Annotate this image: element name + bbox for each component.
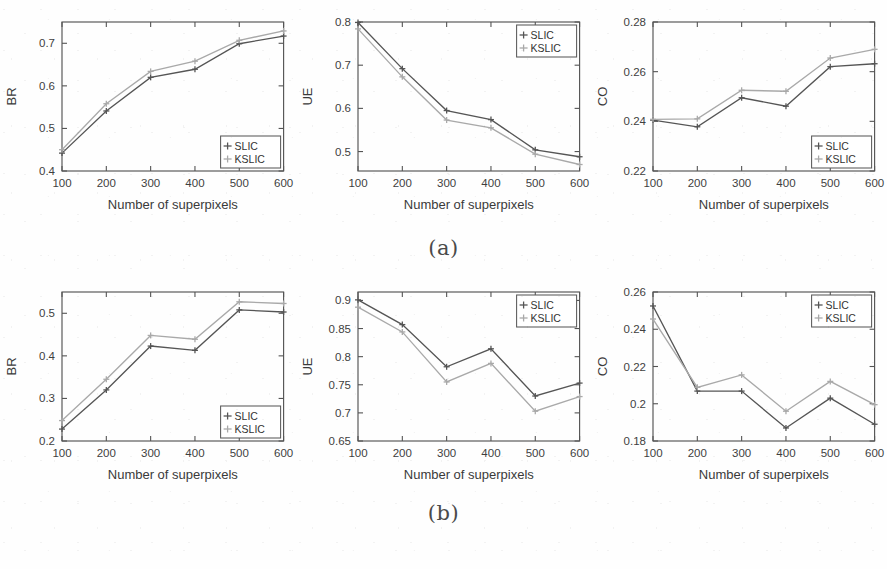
x-tick-label: 100 [52,177,71,189]
y-tick-label: 0.3 [39,392,55,404]
x-axis-title: Number of superpixels [699,467,830,482]
y-tick-label: 0.8 [335,16,351,28]
caption-a: (a) [0,236,887,260]
plot-canvas: 1002003004005006000.180.20.220.240.26Num… [591,278,887,493]
y-tick-label: 0.5 [39,307,55,319]
x-tick-label: 200 [392,177,411,189]
legend-label: KSLIC [530,312,561,324]
x-tick-label: 400 [777,447,796,459]
legend[interactable]: SLICKSLIC [221,406,281,438]
data-point-kslic [576,394,582,400]
x-axis-title: Number of superpixels [403,467,534,482]
subplot-b-br: 1002003004005006000.20.30.40.5Number of … [0,278,296,493]
data-point-slic [872,61,878,67]
legend-label: KSLIC [826,153,857,165]
x-tick-label: 400 [481,447,500,459]
data-point-kslic [192,58,198,64]
x-tick-label: 500 [525,447,544,459]
y-tick-label: 0.7 [335,59,351,71]
x-axis-title: Number of superpixels [699,197,830,212]
legend-label: KSLIC [530,42,561,54]
y-tick-label: 0.6 [335,102,351,114]
x-tick-label: 400 [185,447,204,459]
series-line-kslic [653,319,875,411]
legend[interactable]: SLICKSLIC [812,136,872,168]
legend-label: SLIC [235,410,259,422]
x-tick-label: 600 [274,447,293,459]
x-tick-label: 100 [52,447,71,459]
y-tick-label: 0.2 [39,435,55,447]
caption-b: (b) [0,501,887,525]
y-tick-label: 0.2 [630,398,646,410]
plot-canvas: 1002003004005006000.50.60.70.8Number of … [296,8,592,223]
y-tick-label: 0.24 [624,323,647,335]
y-tick-label: 0.5 [335,146,351,158]
y-tick-label: 0.28 [624,16,646,28]
x-tick-label: 100 [348,177,367,189]
y-tick-label: 0.22 [624,165,646,177]
x-tick-label: 200 [97,447,116,459]
y-tick-label: 0.5 [39,122,55,134]
plot-canvas: 1002003004005006000.650.70.750.80.850.9N… [296,278,592,493]
legend-label: SLIC [826,140,850,152]
y-tick-label: 0.75 [328,379,350,391]
y-tick-label: 0.18 [624,435,646,447]
data-point-slic [355,297,361,303]
figure-sheet: 1002003004005006000.40.50.60.7Number of … [0,0,887,569]
subplot-a-br: 1002003004005006000.40.50.60.7Number of … [0,8,296,223]
y-axis-title: CO [595,357,610,377]
y-tick-label: 0.4 [39,350,56,362]
x-tick-label: 600 [274,177,293,189]
legend-label: SLIC [530,299,554,311]
data-point-kslic [576,162,582,168]
subplot-a-ue: 1002003004005006000.50.60.70.8Number of … [296,8,592,223]
x-tick-label: 300 [141,447,160,459]
data-point-kslic [355,304,361,310]
y-axis-title: UE [300,357,315,375]
data-point-kslic [872,46,878,52]
x-tick-label: 600 [570,177,589,189]
x-tick-label: 200 [688,447,707,459]
x-tick-label: 200 [97,177,116,189]
y-tick-label: 0.7 [39,37,55,49]
x-axis-title: Number of superpixels [108,467,239,482]
data-point-slic [281,309,287,315]
y-tick-label: 0.6 [39,80,55,92]
y-tick-label: 0.26 [624,286,646,298]
y-axis-title: BR [4,357,19,375]
plot-canvas: 1002003004005006000.40.50.60.7Number of … [0,8,296,223]
panel-row-a: 1002003004005006000.40.50.60.7Number of … [0,8,887,223]
x-tick-label: 500 [525,177,544,189]
y-tick-label: 0.8 [335,351,351,363]
x-tick-label: 500 [821,177,840,189]
y-tick-label: 0.7 [335,407,351,419]
x-tick-label: 300 [141,177,160,189]
x-tick-label: 600 [570,447,589,459]
x-tick-label: 200 [688,177,707,189]
data-point-slic [281,33,287,39]
y-tick-label: 0.22 [624,361,646,373]
data-point-kslic [236,37,242,43]
x-tick-label: 600 [865,447,884,459]
y-tick-label: 0.4 [39,165,56,177]
data-point-slic [650,303,656,309]
x-axis-title: Number of superpixels [403,197,534,212]
y-axis-title: BR [4,87,19,105]
legend-label: SLIC [235,140,259,152]
x-tick-label: 100 [348,447,367,459]
series-line-kslic [653,49,875,119]
data-point-kslic [872,402,878,408]
x-tick-label: 300 [732,177,751,189]
data-point-kslic [281,28,287,34]
legend-label: KSLIC [235,153,266,165]
legend[interactable]: SLICKSLIC [812,295,872,327]
legend[interactable]: SLICKSLIC [221,136,281,168]
x-tick-label: 400 [481,177,500,189]
y-tick-label: 0.85 [328,323,350,335]
legend[interactable]: SLICKSLIC [516,295,576,327]
y-tick-label: 0.26 [624,66,646,78]
y-axis-title: UE [300,87,315,105]
series-line-kslic [62,302,284,421]
data-point-slic [192,66,198,72]
legend[interactable]: SLICKSLIC [516,25,576,57]
